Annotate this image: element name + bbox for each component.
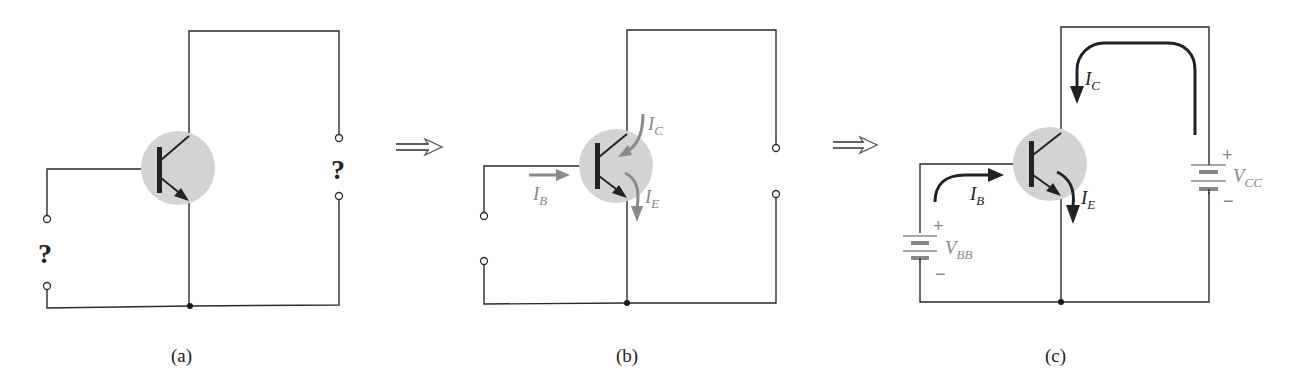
npn-transistor-icon [1013, 127, 1087, 201]
output-unknown: ? [331, 154, 345, 185]
collector-current-arrow-icon [1070, 43, 1195, 135]
base-wire [47, 169, 158, 215]
input-unknown: ? [38, 238, 52, 269]
output-return-wire [47, 200, 339, 308]
vcc-battery-icon [1191, 160, 1226, 194]
ground-junction [624, 300, 630, 306]
output-return-wire [484, 198, 776, 304]
ie-label: IE [1080, 187, 1095, 212]
implies-arrow-icon [396, 139, 442, 155]
ic-label: IC [1084, 68, 1100, 93]
ib-label: IB [969, 183, 984, 208]
collector-wire [189, 31, 339, 135]
vbb-minus: − [935, 264, 946, 284]
vbb-battery-icon [903, 233, 937, 262]
caption-a: (a) [171, 345, 192, 367]
input-terminal-bottom [481, 258, 488, 265]
vcc-label: VCC [1233, 165, 1262, 190]
output-terminal-top [773, 145, 780, 152]
input-terminal-bottom [44, 283, 51, 290]
ic-label: IC [647, 113, 663, 138]
base-current-arrow-icon [529, 169, 570, 181]
panel-a: ? ? (a) [38, 31, 345, 367]
collector-wire [1061, 27, 1209, 162]
transistor-circuit-figure: ? ? (a) IB [0, 0, 1300, 384]
vbb-plus: + [933, 216, 944, 236]
ground-junction [187, 303, 193, 309]
output-terminal-bottom [773, 191, 780, 198]
input-terminal-top [481, 213, 488, 220]
vcc-minus: − [1223, 191, 1234, 211]
panel-c: + − VBB + − VCC IB IC [903, 27, 1262, 367]
panel-b: IB IC IE (b) [481, 30, 780, 367]
ie-label: IE [644, 186, 659, 211]
ib-label: IB [532, 183, 547, 208]
npn-transistor-icon [579, 129, 653, 203]
ground-junction [1058, 299, 1064, 305]
implies-arrow-icon [833, 137, 877, 153]
caption-c: (c) [1045, 345, 1066, 367]
input-terminal-top [44, 216, 51, 223]
npn-transistor-icon [141, 131, 215, 205]
vbb-label: VBB [945, 237, 973, 262]
vcc-plus: + [1222, 145, 1233, 165]
return-wire [920, 190, 1209, 302]
output-terminal-top [336, 135, 343, 142]
output-terminal-bottom [336, 193, 343, 200]
caption-b: (b) [616, 345, 638, 367]
